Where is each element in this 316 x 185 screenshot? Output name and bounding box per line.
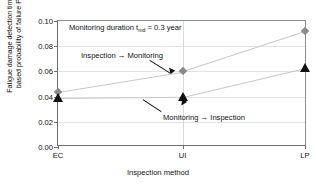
y-tick-label-0.02: 0.02 [38,117,53,126]
series-gray-segment-ec-ui [58,72,182,93]
y-tick-label-0.06: 0.06 [38,67,53,76]
data-point-black-ec [53,93,63,102]
gridline-x-ui [183,21,184,145]
y-tick-0.06 [54,71,58,72]
y-tick-0.02 [54,122,58,123]
x-tick-ec [58,145,59,149]
y-axis-label: Fatigue damage detection time- based pro… [6,0,30,113]
y-tick-0.10 [54,21,58,22]
gridline-y-0.08 [58,46,305,47]
annotation-monitoring-to-inspection-arrow-line [143,99,162,112]
data-point-gray-ui [178,67,186,75]
data-point-gray-lp [301,27,309,35]
y-tick-label-0.04: 0.04 [38,92,53,101]
annotation-inspection-to-monitoring: Inspection → Monitoring [81,51,163,60]
series-black-segment-ec-ui [58,97,183,99]
x-tick-ui [183,145,184,149]
series-gray-segment-ui-lp [183,31,306,72]
annotation-monitoring-duration-prefix: Monitoring duration t [69,23,138,32]
plot-area: 0.10 0.08 0.06 0.04 0.02 0.00 EC UI LP M… [57,20,306,146]
annotation-monitoring-duration-subscript: md [138,27,145,33]
annotation-monitoring-duration-suffix: = 0.3 year [145,23,181,32]
y-tick-label-0.10: 0.10 [38,17,53,26]
x-tick-label-lp: LP [300,151,309,160]
annotation-monitoring-duration: Monitoring duration tmd = 0.3 year [69,23,182,32]
x-axis-label: Inspection method [0,168,316,177]
y-tick-label-0.08: 0.08 [38,42,53,51]
x-tick-label-ui: UI [179,151,187,160]
y-axis-label-line2: based probability of failure Pf [15,0,26,113]
y-tick-0.08 [54,46,58,47]
y-axis-label-line2-text: based probability of failure P [14,0,23,88]
y-tick-label-0.00: 0.00 [38,143,53,152]
annotation-monitoring-to-inspection: Monitoring → Inspection [163,113,245,122]
x-tick-lp [305,145,306,149]
data-point-black-lp [300,63,310,72]
x-tick-label-ec: EC [53,151,64,160]
figure-root: Fatigue damage detection time- based pro… [0,0,316,185]
